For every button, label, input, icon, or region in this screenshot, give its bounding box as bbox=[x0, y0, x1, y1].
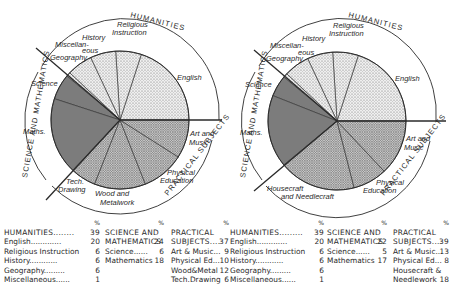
row-value: 1 bbox=[319, 275, 324, 284]
table-row: Mathematics18 bbox=[105, 256, 164, 265]
left-label-maths: Maths. bbox=[23, 127, 46, 136]
row-value: 6 bbox=[95, 266, 100, 275]
row-value: 6 bbox=[95, 256, 100, 265]
right-label-science: Science bbox=[245, 80, 272, 89]
row-label: PRACTICAL bbox=[393, 228, 436, 237]
left-pie-diagram: HUMANITIES SCIENCE AND MATHEMATICS PRACT… bbox=[20, 10, 232, 214]
table-row: Art & Music...13 bbox=[393, 247, 449, 256]
table-row: SUBJECTS....39 bbox=[393, 237, 449, 246]
table-row: Needlework18 bbox=[393, 275, 449, 284]
right-label-english: English bbox=[395, 74, 420, 83]
row-label: PRACTICAL bbox=[171, 228, 214, 237]
row-value: 39 bbox=[90, 228, 100, 237]
table-row: Religious Instruction6 bbox=[230, 247, 324, 256]
left-science-column: % SCIENCE ANDMATHEMATICS24Science......6… bbox=[105, 228, 164, 266]
right-label-maths: Maths. bbox=[240, 128, 263, 137]
row-label: Miscellaneous...... bbox=[4, 275, 70, 284]
row-label: Science...... bbox=[327, 247, 370, 256]
row-label: Mathematics bbox=[327, 256, 375, 265]
row-value: 37 bbox=[219, 237, 229, 246]
left-label-geography: Geography bbox=[50, 53, 88, 62]
row-value: 6 bbox=[224, 275, 229, 284]
table-row: Religious Instruction6 bbox=[4, 247, 100, 256]
row-label: Physical Ed... bbox=[171, 256, 220, 265]
table-row: Science......6 bbox=[105, 247, 164, 256]
right-science-column: % SCIENCE ANDMATHEMATICS22Science......5… bbox=[327, 228, 387, 266]
right-label-art-1: Art and bbox=[405, 134, 431, 143]
row-label: Mathematics bbox=[105, 256, 153, 265]
table-row: Tech.Drawing6 bbox=[171, 275, 229, 284]
row-label: Art & Music... bbox=[393, 247, 443, 256]
row-value: 39 bbox=[439, 237, 449, 246]
row-label: Science...... bbox=[105, 247, 148, 256]
row-value: 12 bbox=[220, 266, 229, 275]
percent-header: % bbox=[223, 218, 229, 227]
row-label: MATHEMATICS bbox=[105, 237, 161, 246]
right-science-heading: SCIENCE AND MATHEMATICS bbox=[238, 49, 269, 178]
row-value: 6 bbox=[319, 247, 324, 256]
row-value: 18 bbox=[440, 275, 449, 284]
table-row: Miscellaneous......1 bbox=[230, 275, 324, 284]
row-label: History............ bbox=[4, 256, 57, 265]
table-row: English.............20 bbox=[4, 237, 100, 246]
row-label: Geography......... bbox=[230, 266, 291, 275]
table-row: Art & Music...9 bbox=[171, 247, 229, 256]
row-value: 20 bbox=[315, 237, 324, 246]
table-row: HUMANITIES........39 bbox=[4, 228, 100, 237]
right-label-geography: Geography bbox=[266, 54, 304, 63]
table-row: Science......5 bbox=[327, 247, 387, 256]
table-row: PRACTICAL bbox=[171, 228, 229, 237]
percent-header: % bbox=[318, 218, 324, 227]
right-label-pe-2: Education bbox=[363, 186, 396, 195]
row-value: 10 bbox=[220, 256, 229, 265]
row-label: HUMANITIES........ bbox=[4, 228, 74, 237]
right-label-art-2: Music bbox=[404, 143, 424, 152]
right-humanities-column: % HUMANITIES.........39English..........… bbox=[230, 228, 324, 284]
table-row: MATHEMATICS24 bbox=[105, 237, 164, 246]
table-row: SCIENCE AND bbox=[105, 228, 164, 237]
right-practical-column: % PRACTICALSUBJECTS....39Art & Music...1… bbox=[393, 228, 449, 284]
row-label: Geography......... bbox=[4, 266, 65, 275]
table-row: Physical Ed...8 bbox=[393, 256, 449, 265]
row-value: 6 bbox=[319, 256, 324, 265]
left-label-tech-2: Drawing bbox=[58, 185, 86, 194]
table-row: MATHEMATICS22 bbox=[327, 237, 387, 246]
left-label-art-1: Art and bbox=[189, 129, 215, 138]
table-row: Housecraft & bbox=[393, 266, 449, 275]
row-label: SCIENCE AND bbox=[105, 228, 159, 237]
left-label-science: Science bbox=[31, 79, 58, 88]
row-label: Religious Instruction bbox=[230, 247, 305, 256]
row-value: 13 bbox=[440, 247, 449, 256]
row-value: 1 bbox=[95, 275, 100, 284]
row-value: 22 bbox=[377, 237, 387, 246]
table-row: Mathematics17 bbox=[327, 256, 387, 265]
row-label: Religious Instruction bbox=[4, 247, 79, 256]
table-row: SUBJECTS....37 bbox=[171, 237, 229, 246]
row-value: 18 bbox=[155, 256, 164, 265]
row-label: Housecraft & bbox=[393, 266, 441, 275]
left-label-art-2: Music bbox=[189, 138, 209, 147]
row-label: English............. bbox=[4, 237, 61, 246]
table-row: SCIENCE AND bbox=[327, 228, 387, 237]
row-value: 8 bbox=[444, 256, 449, 265]
row-value: 17 bbox=[378, 256, 387, 265]
left-humanities-column: % HUMANITIES........39English...........… bbox=[4, 228, 100, 284]
right-pie-diagram: HUMANITIES SCIENCE AND MATHEMATICS PRACT… bbox=[238, 10, 448, 217]
row-label: Wood&Metal bbox=[171, 266, 218, 275]
row-label: English............. bbox=[230, 237, 287, 246]
row-label: MATHEMATICS bbox=[327, 237, 383, 246]
row-label: SUBJECTS.... bbox=[393, 237, 442, 246]
row-label: History............ bbox=[230, 256, 283, 265]
left-label-english: English bbox=[177, 73, 202, 82]
row-value: 9 bbox=[224, 247, 229, 256]
row-label: Tech.Drawing bbox=[171, 275, 221, 284]
row-label: SUBJECTS.... bbox=[171, 237, 220, 246]
percent-header: % bbox=[381, 218, 387, 227]
row-label: SCIENCE AND bbox=[327, 228, 381, 237]
row-label: HUMANITIES......... bbox=[230, 228, 303, 237]
left-label-pe-2: Education bbox=[160, 176, 193, 185]
table-row: Geography.........6 bbox=[230, 266, 324, 275]
percent-header: % bbox=[94, 218, 100, 227]
left-label-religious-2: Instruction bbox=[112, 28, 147, 37]
table-row: Geography.........6 bbox=[4, 266, 100, 275]
